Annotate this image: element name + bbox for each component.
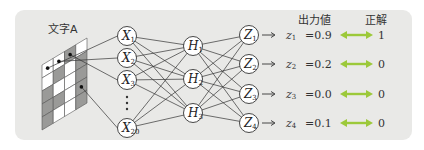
pixel-dot	[68, 53, 72, 57]
input-node-2: X2	[118, 49, 137, 68]
output-row: z1=0.91	[262, 29, 385, 42]
output-node-3: Z3	[240, 85, 259, 104]
neural-network-diagram: 文字AX1X2X3X20H1H2H3Z1Z2Z3Z4出力値正解z1=0.91z2…	[0, 0, 424, 150]
compare-arrow-icon	[340, 90, 373, 98]
output-node-2: Z2	[240, 55, 259, 74]
hidden-node-3: H3	[184, 104, 203, 123]
svg-text:z2: z2	[285, 58, 296, 71]
pixel-dot	[46, 66, 50, 70]
answer-value: 1	[378, 29, 385, 42]
answer-value: 0	[378, 117, 385, 130]
output-node-1: Z1	[240, 26, 259, 45]
compare-arrow-icon	[340, 119, 373, 127]
svg-text:z1: z1	[285, 29, 296, 42]
output-header: 出力値	[298, 13, 331, 27]
pixel-dot	[57, 60, 61, 64]
answer-header: 正解	[365, 13, 387, 27]
output-node-4: Z4	[240, 114, 259, 133]
answer-value: 0	[378, 58, 385, 71]
network-svg: 文字AX1X2X3X20H1H2H3Z1Z2Z3Z4出力値正解z1=0.91z2…	[0, 0, 424, 150]
character-label: 文字A	[48, 22, 78, 36]
output-row: z2=0.20	[262, 58, 385, 71]
input-node-1: X1	[118, 27, 137, 46]
hidden-node-1: H1	[184, 37, 203, 56]
pixel-dot	[80, 85, 84, 89]
hidden-node-2: H2	[184, 70, 203, 89]
svg-text:z4: z4	[285, 117, 297, 130]
svg-text:=0.9: =0.9	[305, 29, 332, 42]
svg-text:=0.2: =0.2	[305, 58, 332, 71]
ellipsis-dot	[126, 102, 128, 104]
output-row: z3=0.00	[262, 88, 385, 101]
compare-arrow-icon	[340, 60, 373, 68]
answer-value: 0	[378, 88, 385, 101]
svg-text:z3: z3	[285, 88, 296, 101]
ellipsis-dot	[126, 96, 128, 98]
compare-arrow-icon	[340, 31, 373, 39]
character-grid	[42, 36, 118, 130]
svg-text:X20: X20	[121, 121, 139, 136]
input-node-3: X3	[118, 71, 137, 90]
ellipsis-dot	[126, 108, 128, 110]
svg-text:=0.0: =0.0	[305, 88, 332, 101]
output-row: z4=0.10	[262, 117, 385, 130]
svg-text:=0.1: =0.1	[305, 117, 332, 130]
